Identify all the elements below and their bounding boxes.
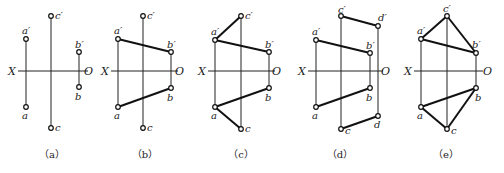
point-label: b′ xyxy=(75,39,84,50)
point-label: c xyxy=(55,122,61,133)
point-label: b xyxy=(265,92,271,103)
panel-d: XOa′ac′cb′bd′d（d） xyxy=(297,4,390,160)
point-label: b′ xyxy=(472,39,481,50)
point-label: d xyxy=(374,119,380,130)
axis-label-x: X xyxy=(197,65,207,78)
point-label: b′ xyxy=(167,39,176,50)
edge-line xyxy=(421,107,447,129)
point-marker xyxy=(24,37,29,42)
point-label: a xyxy=(417,110,423,121)
point-marker xyxy=(77,85,82,90)
panel-c: XOa′ac′cb′b（c） xyxy=(197,10,281,160)
point-marker xyxy=(239,127,244,132)
point-label: c′ xyxy=(55,10,64,21)
axis-label-o: O xyxy=(272,65,281,78)
point-label: a′ xyxy=(211,26,220,37)
panel-a: XOa′ac′cb′b（a） xyxy=(7,10,93,160)
axis-label-x: X xyxy=(297,65,307,78)
edge-line xyxy=(447,88,476,129)
point-label: a xyxy=(211,110,217,121)
point-label: a xyxy=(22,110,28,121)
point-marker xyxy=(376,114,381,119)
point-label: a′ xyxy=(114,25,123,36)
edge-line xyxy=(215,107,241,129)
panel-b: XOa′ac′cb′b（b） xyxy=(100,10,184,160)
point-marker xyxy=(169,86,174,91)
point-marker xyxy=(141,126,146,131)
point-label: d′ xyxy=(378,12,387,23)
edge-line xyxy=(118,39,171,52)
axis-label-o: O xyxy=(175,65,184,78)
edge-line xyxy=(316,40,370,53)
point-label: a xyxy=(114,110,120,121)
point-label: c xyxy=(345,125,351,136)
point-marker xyxy=(116,37,121,42)
point-label: c′ xyxy=(443,3,452,14)
point-label: b xyxy=(366,92,372,103)
edge-line xyxy=(215,40,269,52)
point-marker xyxy=(169,50,174,55)
point-marker xyxy=(267,86,272,91)
edge-line xyxy=(118,88,171,107)
point-marker xyxy=(314,38,319,43)
point-label: c xyxy=(451,125,457,136)
axis-label-x: X xyxy=(100,65,110,78)
axis-label-x: X xyxy=(7,65,17,78)
point-marker xyxy=(267,50,272,55)
point-label: c xyxy=(245,123,251,134)
point-marker xyxy=(239,14,244,19)
point-label: c′ xyxy=(338,4,347,15)
edge-line xyxy=(316,88,370,107)
point-marker xyxy=(116,105,121,110)
point-label: b xyxy=(167,92,173,103)
point-marker xyxy=(419,37,424,42)
point-marker xyxy=(376,24,381,29)
point-marker xyxy=(368,51,373,56)
point-label: a′ xyxy=(22,25,31,36)
point-label: b′ xyxy=(366,40,375,51)
axis-label-o: O xyxy=(381,65,390,78)
projection-figure: XOa′ac′cb′b（a）XOa′ac′cb′b（b）XOa′ac′cb′b（… xyxy=(0,0,504,173)
panel-caption: （a） xyxy=(39,149,65,160)
axis-label-o: O xyxy=(84,65,93,78)
point-marker xyxy=(339,127,344,132)
point-marker xyxy=(24,105,29,110)
point-marker xyxy=(474,86,479,91)
point-marker xyxy=(314,105,319,110)
point-label: c′ xyxy=(245,10,254,21)
edge-line xyxy=(421,88,476,107)
panel-caption: （d） xyxy=(327,149,353,160)
edge-line xyxy=(215,88,269,107)
panel-caption: （b） xyxy=(132,149,158,160)
point-label: a′ xyxy=(417,25,426,36)
point-label: a xyxy=(312,110,318,121)
edge-line xyxy=(341,16,378,26)
axis-label-x: X xyxy=(403,65,413,78)
point-label: b xyxy=(75,91,81,102)
point-marker xyxy=(77,50,82,55)
point-marker xyxy=(368,86,373,91)
point-marker xyxy=(474,51,479,56)
point-marker xyxy=(213,105,218,110)
point-label: a′ xyxy=(312,26,321,37)
point-label: b xyxy=(475,92,481,103)
point-marker xyxy=(445,127,450,132)
point-marker xyxy=(49,14,54,19)
panel-caption: （e） xyxy=(433,149,459,160)
point-marker xyxy=(213,38,218,43)
axis-label-o: O xyxy=(483,65,492,78)
panel-caption: （c） xyxy=(228,149,254,160)
panel-e: XOa′ac′cb′b（e） xyxy=(403,3,492,160)
point-marker xyxy=(419,105,424,110)
point-marker xyxy=(445,14,450,19)
point-marker xyxy=(49,126,54,131)
point-label: b′ xyxy=(265,39,274,50)
point-label: c′ xyxy=(147,10,156,21)
point-marker xyxy=(141,14,146,19)
point-label: c xyxy=(147,122,153,133)
